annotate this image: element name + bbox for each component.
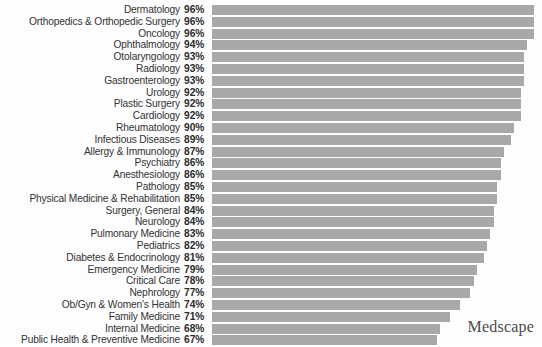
bar [212,312,450,322]
bar [212,265,477,275]
chart-row: Pathology85% [0,182,542,192]
value-label: 84% [184,217,208,227]
category-label: Pathology [0,182,180,192]
bar-track [212,276,542,286]
bar [212,288,470,298]
value-label: 78% [184,276,208,286]
chart-row: Gastroenterology93% [0,76,542,86]
bar [212,170,501,180]
chart-row: Radiology93% [0,64,542,74]
bar-track [212,253,542,263]
chart-row: Allergy & Immunology87% [0,147,542,157]
value-label: 92% [184,99,208,109]
category-label: Otolaryngology [0,52,180,62]
chart-row: Pulmonary Medicine83% [0,229,542,239]
value-label: 71% [184,312,208,322]
bar [212,5,534,15]
chart-row: Neurology84% [0,217,542,227]
value-label: 85% [184,182,208,192]
category-label: Gastroenterology [0,76,180,86]
bar-track [212,135,542,145]
value-label: 77% [184,288,208,298]
category-label: Emergency Medicine [0,265,180,275]
chart-row: Family Medicine71% [0,312,542,322]
chart-row: Ophthalmology94% [0,40,542,50]
bar-track [212,182,542,192]
medscape-logo: Medscape [468,318,534,336]
chart-row: Anesthesiology86% [0,170,542,180]
category-label: Public Health & Preventive Medicine [0,335,180,345]
bar-track [212,217,542,227]
chart-rows: Dermatology96%Orthopedics & Orthopedic S… [0,5,542,347]
category-label: Diabetes & Endocrinology [0,253,180,263]
bar-track [212,111,542,121]
value-label: 92% [184,88,208,98]
chart-row: Pediatrics82% [0,241,542,251]
bar-track [212,206,542,216]
category-label: Cardiology [0,111,180,121]
category-label: Ob/Gyn & Women's Health [0,300,180,310]
bar [212,40,527,50]
bar-track [212,300,542,310]
value-label: 74% [184,300,208,310]
bar [212,76,524,86]
category-label: Ophthalmology [0,40,180,50]
chart-row: Emergency Medicine79% [0,265,542,275]
category-label: Neurology [0,217,180,227]
chart-row: Ob/Gyn & Women's Health74% [0,300,542,310]
chart-row: Nephrology77% [0,288,542,298]
category-label: Plastic Surgery [0,99,180,109]
bar-track [212,17,542,27]
value-label: 93% [184,64,208,74]
bar [212,64,524,74]
bar-track [212,194,542,204]
value-label: 87% [184,147,208,157]
chart-row: Orthopedics & Orthopedic Surgery96% [0,17,542,27]
bar-track [212,170,542,180]
value-label: 92% [184,111,208,121]
category-label: Surgery, General [0,206,180,216]
chart-row: Cardiology92% [0,111,542,121]
value-label: 68% [184,324,208,334]
chart-row: Internal Medicine68% [0,324,542,334]
chart-row: Rheumatology90% [0,123,542,133]
category-label: Pulmonary Medicine [0,229,180,239]
chart-row: Physical Medicine & Rehabilitation85% [0,194,542,204]
bar [212,135,511,145]
category-label: Psychiatry [0,158,180,168]
bar-track [212,29,542,39]
bar-track [212,265,542,275]
bar [212,300,460,310]
bar-track [212,288,542,298]
chart-row: Surgery, General84% [0,206,542,216]
value-label: 82% [184,241,208,251]
value-label: 96% [184,29,208,39]
bar [212,206,494,216]
bar [212,29,534,39]
bar [212,182,497,192]
chart-row: Infectious Diseases89% [0,135,542,145]
value-label: 93% [184,76,208,86]
value-label: 90% [184,123,208,133]
bar [212,276,474,286]
bar-track [212,229,542,239]
bar-track [212,40,542,50]
bar-track [212,5,542,15]
value-label: 79% [184,265,208,275]
chart-row: Psychiatry86% [0,158,542,168]
bar [212,253,484,263]
category-label: Pediatrics [0,241,180,251]
chart-row: Public Health & Preventive Medicine67% [0,335,542,345]
category-label: Urology [0,88,180,98]
value-label: 81% [184,253,208,263]
category-label: Orthopedics & Orthopedic Surgery [0,17,180,27]
chart-row: Diabetes & Endocrinology81% [0,253,542,263]
chart-row: Oncology96% [0,29,542,39]
category-label: Anesthesiology [0,170,180,180]
bar [212,147,504,157]
bar [212,123,514,133]
bar [212,324,440,334]
bar-track [212,76,542,86]
chart-row: Dermatology96% [0,5,542,15]
